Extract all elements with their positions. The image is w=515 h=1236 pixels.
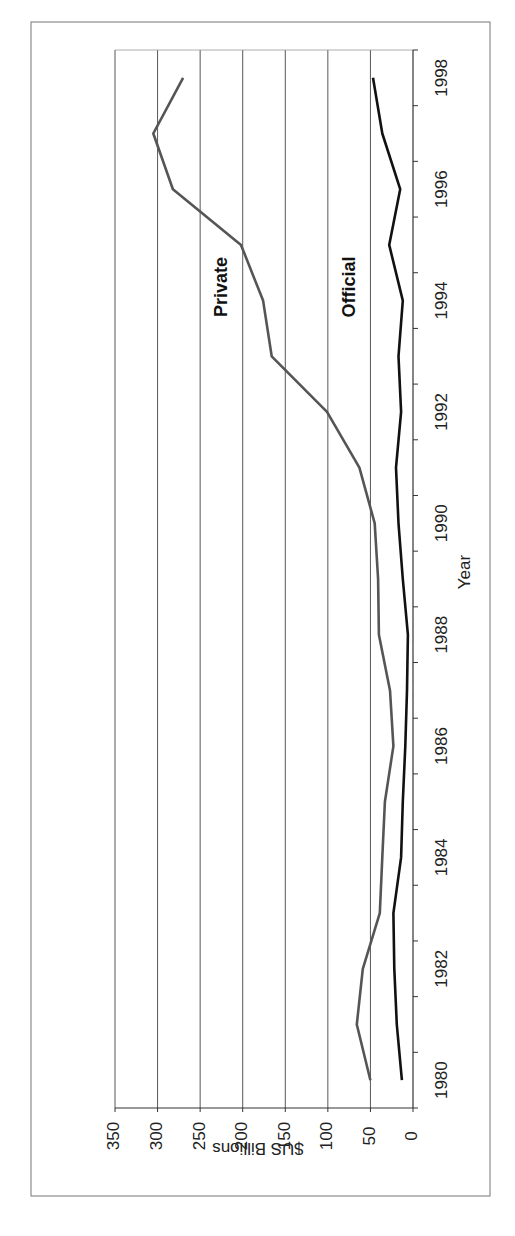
x-tick-label: 1980 — [432, 1061, 451, 1099]
x-tick-label: 1994 — [432, 282, 451, 320]
x-tick-label: 1990 — [432, 504, 451, 542]
x-tick-label: 1992 — [432, 393, 451, 431]
series-label-private: Private — [211, 257, 231, 317]
series-line-private — [153, 78, 393, 1080]
x-axis-tick-labels: 1980198219841986198819901992199419961998 — [432, 59, 451, 1099]
x-tick-label: 1986 — [432, 727, 451, 765]
series-label-official: Official — [339, 256, 359, 317]
y-tick-label: 250 — [190, 1122, 209, 1150]
x-tick-label: 1984 — [432, 839, 451, 877]
axes — [115, 50, 418, 1112]
series-lines — [153, 78, 408, 1080]
x-tick-label: 1982 — [432, 950, 451, 988]
y-tick-label: 300 — [147, 1122, 166, 1150]
y-tick-label: 350 — [104, 1122, 123, 1150]
y-tick-label: 50 — [360, 1127, 379, 1146]
x-tick-label: 1988 — [432, 616, 451, 654]
y-axis-title: $US Billions — [212, 1139, 304, 1158]
y-tick-label: 100 — [317, 1122, 336, 1150]
y-tick-label: 0 — [402, 1131, 421, 1140]
x-tick-label: 1996 — [432, 170, 451, 208]
x-axis-title: Year — [455, 554, 474, 589]
x-tick-label: 1998 — [432, 59, 451, 97]
line-chart: 050100150200250300350 198019821984198619… — [0, 0, 515, 1236]
chart-border — [31, 22, 490, 1196]
